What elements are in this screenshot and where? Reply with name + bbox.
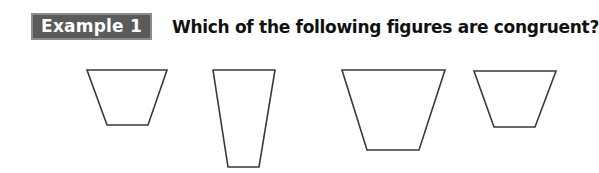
trapezoid-figure-2-icon <box>213 70 275 167</box>
trapezoid-figure-4-icon <box>474 71 556 127</box>
trapezoid-figure-1-icon <box>87 70 167 125</box>
trapezoid-figure-3-icon <box>342 70 445 150</box>
